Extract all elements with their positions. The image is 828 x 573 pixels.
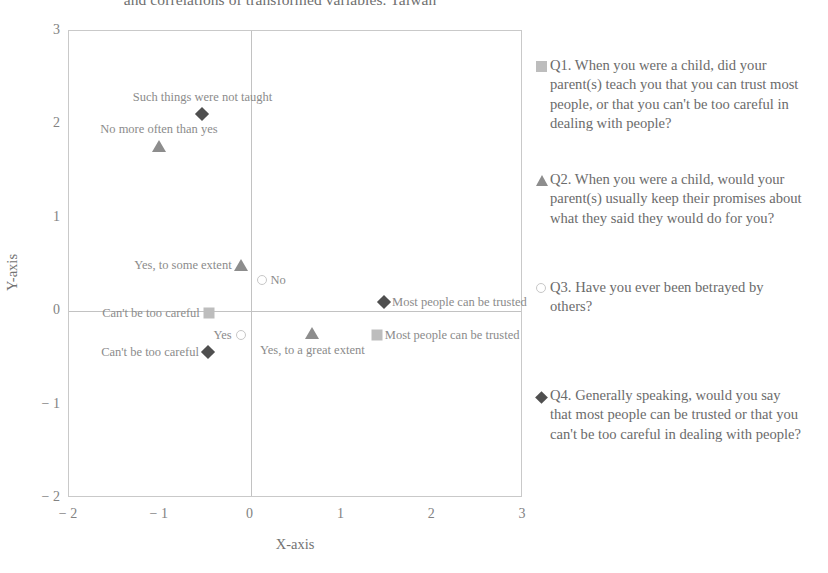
x-tick-label: − 1 bbox=[150, 506, 168, 522]
circle-marker-icon bbox=[257, 275, 267, 285]
legend-entry[interactable]: Q1. When you were a child, did your pare… bbox=[536, 56, 808, 134]
x-tick-label: 2 bbox=[428, 506, 435, 522]
data-point-label: Yes, to some extent bbox=[134, 259, 231, 272]
legend-entry[interactable]: Q2. When you were a child, would your pa… bbox=[536, 170, 804, 228]
legend-entry-label: Q3. Have you ever been betrayed by other… bbox=[550, 278, 801, 317]
y-axis-title: Y-axis bbox=[4, 254, 21, 291]
triangle-marker-icon bbox=[234, 259, 248, 271]
data-point-label: No bbox=[270, 274, 285, 287]
legend-square-icon bbox=[536, 61, 550, 73]
data-point-label: Most people can be trusted bbox=[385, 328, 520, 341]
chart-title: and correlations of transformed variable… bbox=[0, 0, 560, 9]
legend-triangle-icon bbox=[536, 175, 550, 187]
legend-entry[interactable]: Q4. Generally speaking, would you say th… bbox=[536, 386, 802, 444]
data-point-label: Most people can be trusted bbox=[392, 296, 527, 309]
diamond-marker-icon bbox=[201, 345, 215, 359]
square-marker-icon bbox=[371, 329, 382, 340]
y-tick-label: 1 bbox=[36, 209, 60, 225]
triangle-marker-icon bbox=[152, 140, 166, 152]
y-tick-label: 0 bbox=[36, 302, 60, 318]
legend-entry[interactable]: Q3. Have you ever been betrayed by other… bbox=[536, 278, 801, 317]
y-tick-label: 3 bbox=[36, 22, 60, 38]
legend-entry-label: Q1. When you were a child, did your pare… bbox=[550, 56, 808, 134]
plot-area: Can't be too carefulMost people can be t… bbox=[68, 30, 522, 497]
x-tick-label: 1 bbox=[337, 506, 344, 522]
x-axis-title: X-axis bbox=[276, 536, 315, 553]
y-tick-label: − 1 bbox=[36, 396, 60, 412]
data-point-label: Yes bbox=[213, 329, 231, 342]
x-tick-label: 3 bbox=[519, 506, 526, 522]
data-point-label: Can't be too careful bbox=[102, 307, 200, 320]
square-marker-icon bbox=[203, 308, 214, 319]
triangle-marker-icon bbox=[305, 327, 319, 339]
data-point-label: No more often than yes bbox=[100, 122, 217, 135]
legend-entry-label: Q4. Generally speaking, would you say th… bbox=[550, 386, 802, 444]
y-tick-label: − 2 bbox=[36, 489, 60, 505]
y-tick-label: 2 bbox=[36, 115, 60, 131]
x-tick-label: 0 bbox=[246, 506, 253, 522]
x-tick-label: − 2 bbox=[59, 506, 77, 522]
legend-circle-icon bbox=[536, 283, 550, 295]
data-point-label: Can't be too careful bbox=[101, 346, 199, 359]
data-point-label: Such things were not taught bbox=[133, 91, 273, 104]
legend-diamond-icon bbox=[536, 391, 550, 403]
diamond-marker-icon bbox=[195, 107, 209, 121]
legend-entry-label: Q2. When you were a child, would your pa… bbox=[550, 170, 804, 228]
data-point-label: Yes, to a great extent bbox=[260, 344, 365, 357]
circle-marker-icon bbox=[236, 330, 246, 340]
diamond-marker-icon bbox=[377, 295, 391, 309]
